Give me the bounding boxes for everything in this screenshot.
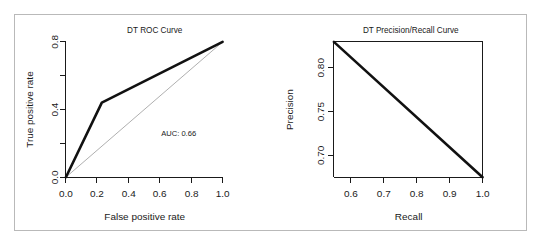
roc-plot-title: DT ROC Curve [127, 26, 183, 35]
figure-frame: DT ROC Curve 0.0 0.4 0.8 0.0 0.2 0.4 [14, 14, 527, 231]
roc-x-ticklabel-3: 0.6 [153, 188, 167, 199]
roc-curve-panel: DT ROC Curve 0.0 0.4 0.8 0.0 0.2 0.4 [15, 15, 271, 230]
pr-x-ticklabel-1: 0.7 [376, 188, 390, 199]
auc-annotation: AUC: 0.66 [161, 129, 196, 138]
pr-y-axis-title: Precision [283, 89, 294, 130]
roc-y-ticklabel-0: 0.0 [49, 170, 60, 184]
pr-y-ticklabel-1: 0.75 [314, 101, 325, 121]
pr-x-ticklabel-0: 0.6 [343, 188, 357, 199]
roc-x-ticklabel-0: 0.0 [59, 188, 73, 199]
pr-x-ticklabel-4: 1.0 [475, 188, 489, 199]
pr-x-ticklabel-3: 0.9 [442, 188, 456, 199]
roc-chance-diagonal [66, 42, 223, 177]
roc-y-ticklabel-2: 0.4 [49, 102, 60, 116]
roc-y-ticklabel-4: 0.8 [49, 35, 60, 49]
roc-x-ticklabel-5: 1.0 [216, 188, 230, 199]
pr-y-ticklabel-2: 0.80 [314, 58, 325, 78]
pr-plot-svg: DT Precision/Recall Curve 0.70 0.75 0.80… [271, 15, 527, 230]
roc-y-axis-title: True positive rate [24, 71, 35, 148]
roc-x-axis-title: False positive rate [104, 211, 185, 222]
pr-x-ticklabel-2: 0.8 [409, 188, 423, 199]
pr-plot-title: DT Precision/Recall Curve [362, 26, 458, 35]
roc-plot-svg: DT ROC Curve 0.0 0.4 0.8 0.0 0.2 0.4 [15, 15, 271, 230]
roc-x-ticklabel-2: 0.4 [122, 188, 136, 199]
pr-y-ticklabel-0: 0.70 [314, 145, 325, 165]
precision-recall-panel: DT Precision/Recall Curve 0.70 0.75 0.80… [271, 15, 527, 230]
roc-x-ticklabel-4: 0.8 [185, 188, 199, 199]
pr-curve-line [333, 42, 482, 177]
roc-x-ticklabel-1: 0.2 [90, 188, 104, 199]
pr-x-axis-title: Recall [394, 211, 422, 222]
